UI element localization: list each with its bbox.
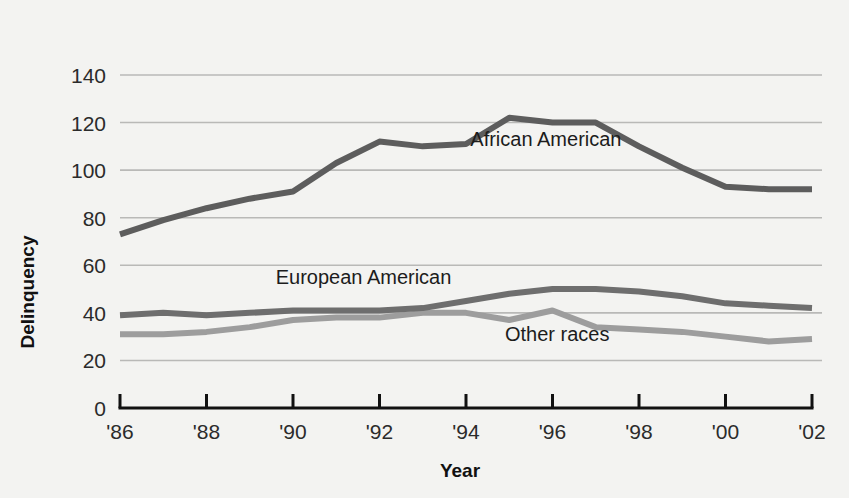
- y-tick-label: 80: [83, 207, 106, 230]
- x-tick-label: '98: [625, 420, 652, 443]
- x-tick-label: '00: [712, 420, 739, 443]
- y-tick-label: 0: [94, 397, 106, 420]
- y-tick-label: 100: [71, 159, 106, 182]
- x-tick-label: '88: [193, 420, 220, 443]
- series-label: Other races: [505, 323, 609, 345]
- x-tick-label: '90: [279, 420, 306, 443]
- chart-container: 020406080100120140 '86'88'90'92'94'96'98…: [0, 0, 849, 498]
- y-tick-label: 120: [71, 112, 106, 135]
- line-chart: 020406080100120140 '86'88'90'92'94'96'98…: [0, 0, 849, 498]
- x-tick-labels: '86'88'90'92'94'96'98'00'02: [106, 420, 825, 443]
- y-tick-label: 40: [83, 302, 106, 325]
- x-axis-title: Year: [440, 460, 481, 481]
- y-axis-title: Delinquency: [17, 235, 38, 348]
- y-tick-label: 60: [83, 254, 106, 277]
- y-tick-label: 20: [83, 349, 106, 372]
- x-tick-label: '02: [798, 420, 825, 443]
- series-label: European American: [276, 266, 452, 288]
- y-tick-label: 140: [71, 64, 106, 87]
- x-tick-label: '94: [452, 420, 480, 443]
- x-tick-label: '96: [539, 420, 566, 443]
- x-tick-label: '92: [366, 420, 393, 443]
- x-tick-label: '86: [106, 420, 133, 443]
- series-label: African American: [470, 128, 621, 150]
